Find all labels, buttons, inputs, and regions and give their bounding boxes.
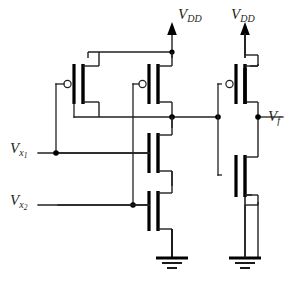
vdd-left-supply: [167, 22, 177, 52]
label-vx2-symbol: V: [10, 192, 19, 208]
label-vx1: Vx1: [10, 140, 28, 160]
label-vf-symbol: V: [268, 108, 277, 124]
label-vf-subscript: f: [277, 115, 280, 126]
pmos-bubble-mp3: [226, 80, 233, 87]
label-vf: Vf: [268, 108, 280, 126]
label-vx2: Vx2: [10, 192, 28, 212]
junction-dot-vx1: [53, 150, 59, 156]
label-vx1-index: 1: [24, 151, 28, 160]
transistor-nmos-mn3: [222, 117, 270, 258]
label-vdd-right-subscript: DD: [240, 13, 255, 24]
label-vx1-subscript: x1: [19, 147, 28, 158]
circuit-schematic: VDD VDD Vx1 Vx2 Vf: [0, 0, 297, 286]
transistor-pmos-mp1-body: [56, 52, 104, 117]
schematic-canvas: [0, 0, 297, 286]
label-vx2-index: 2: [24, 203, 28, 212]
label-vdd-left: VDD: [178, 6, 202, 24]
label-vx2-subscript: x2: [19, 199, 28, 210]
label-vdd-left-subscript: DD: [187, 13, 202, 24]
junction-dot-vf: [255, 114, 261, 120]
label-vx1-symbol: V: [10, 140, 19, 156]
pmos-bubble-mp1: [64, 80, 71, 87]
transistor-nmos-mn2: [58, 171, 183, 258]
pmos-bubble-mp2: [139, 80, 146, 87]
label-vdd-left-symbol: V: [178, 6, 187, 22]
label-vdd-right: VDD: [231, 6, 255, 24]
label-vdd-right-symbol: V: [231, 6, 240, 22]
